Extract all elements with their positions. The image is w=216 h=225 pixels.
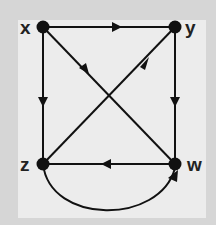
arrow-down-icon [170,97,180,107]
node-label-y: y [185,17,196,38]
node-label-w: w [186,154,202,175]
node-y [169,21,182,34]
edge-w-z [43,159,175,169]
arrow-right-icon [112,22,122,32]
edge-x-y [43,22,175,32]
graph-canvas: x y z w [0,0,216,225]
node-x [37,21,50,34]
node-label-z: z [20,154,30,175]
edge-z-w-curved [43,164,178,210]
edge-y-w [170,27,180,164]
arrow-down-icon [38,97,48,107]
node-label-x: x [20,17,31,38]
arrow-left-icon [101,159,111,169]
node-z [37,158,50,171]
edge-x-z [38,27,48,164]
node-w [169,158,182,171]
